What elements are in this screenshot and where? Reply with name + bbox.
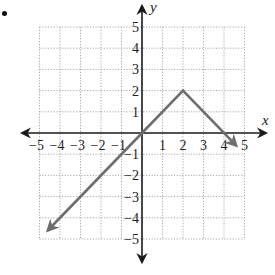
y-tick-label: −2 bbox=[124, 168, 139, 183]
y-tick-label: 5 bbox=[132, 20, 139, 35]
x-tick-label: 1 bbox=[159, 138, 166, 153]
y-tick-label: 1 bbox=[132, 105, 139, 120]
x-tick-label: −2 bbox=[91, 138, 106, 153]
y-tick-label: 2 bbox=[132, 84, 139, 99]
y-tick-label: 4 bbox=[132, 41, 139, 56]
x-tick-label: −5 bbox=[29, 138, 44, 153]
x-tick-label: 3 bbox=[200, 138, 207, 153]
y-tick-label: −3 bbox=[124, 190, 139, 205]
y-tick-label: 3 bbox=[132, 62, 139, 77]
x-tick-label: 2 bbox=[180, 138, 187, 153]
x-tick-label: −3 bbox=[70, 138, 85, 153]
x-tick-label: 4 bbox=[221, 138, 228, 153]
coordinate-plane: −5−4−3−2−11234554321−1−2−3−4−5 xy bbox=[0, 0, 275, 275]
axes bbox=[22, 6, 266, 262]
y-tick-label: −4 bbox=[124, 211, 139, 226]
y-tick-label: −5 bbox=[124, 232, 139, 247]
y-axis-label: y bbox=[148, 0, 157, 15]
x-tick-label: 5 bbox=[241, 138, 248, 153]
x-axis-label: x bbox=[261, 112, 269, 128]
x-tick-label: −4 bbox=[50, 138, 65, 153]
